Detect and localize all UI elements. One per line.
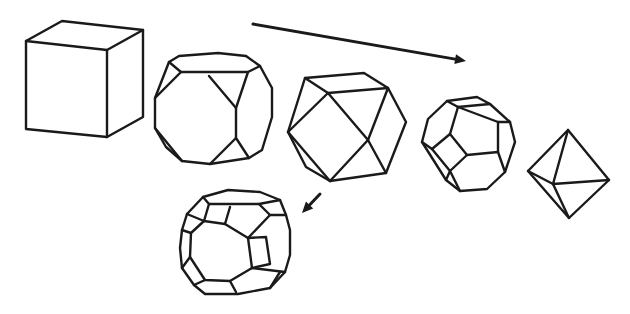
truncated-cuboctahedron-edge — [187, 214, 204, 221]
truncated-cuboctahedron-edge — [182, 230, 191, 268]
polyhedra-diagram — [0, 0, 630, 314]
sequence-arrow-head — [454, 54, 466, 64]
cuboctahedron-edge — [368, 88, 388, 140]
truncated-cuboctahedron-edge — [230, 268, 252, 281]
truncated-cuboctahedron-edge — [191, 221, 204, 233]
sequence-arrow-shaft — [253, 24, 455, 59]
truncated-octahedron-edge — [432, 107, 458, 149]
diagram-svg — [0, 0, 630, 314]
cuboctahedron-edge — [288, 132, 330, 181]
truncated-octahedron-edge — [447, 101, 490, 107]
arrows-group — [253, 24, 466, 213]
cuboctahedron-edge — [328, 93, 386, 173]
cuboctahedron-edge — [330, 140, 368, 181]
truncated-octahedron-icon — [422, 97, 515, 191]
truncated-cube-edge — [236, 72, 249, 158]
shapes-group — [26, 21, 609, 294]
cube-icon — [26, 21, 143, 137]
truncated-cube-edge — [155, 128, 182, 161]
truncated-cuboctahedron-edge — [225, 224, 248, 238]
branch-arrow-icon — [302, 194, 320, 213]
truncated-cuboctahedron-edge — [204, 204, 230, 224]
truncated-cube-edge — [169, 62, 260, 72]
truncated-cuboctahedron-icon — [180, 190, 290, 294]
sequence-arrow-icon — [253, 24, 466, 64]
truncated-cuboctahedron-edge — [203, 197, 280, 204]
octahedron-edge — [528, 171, 553, 184]
cuboctahedron-icon — [288, 73, 406, 181]
truncated-cube-icon — [155, 53, 272, 164]
octahedron-edge — [528, 130, 609, 218]
truncated-cuboctahedron-edge — [194, 280, 205, 285]
cube-edge — [26, 30, 143, 50]
truncated-cube-edge — [209, 76, 236, 108]
branch-arrow-shaft — [310, 194, 320, 205]
octahedron-icon — [528, 130, 609, 218]
truncated-octahedron-edge — [450, 134, 505, 172]
